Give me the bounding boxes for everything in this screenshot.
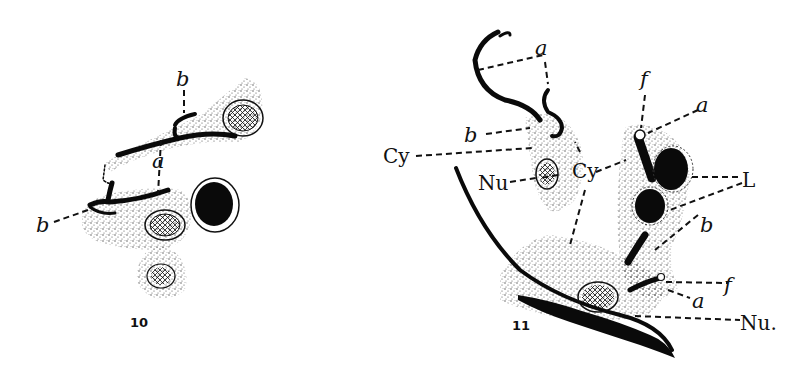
label-b-left: b: [464, 123, 477, 147]
figure-number-11: 11: [512, 318, 530, 333]
figure-number-10: 10: [130, 315, 148, 330]
label-f-right: f: [722, 273, 735, 297]
nucleus-bottom: [147, 264, 175, 288]
nucleus-middle: [145, 210, 185, 240]
nucleus-upper: [223, 100, 263, 136]
leader-cy-left: [416, 148, 532, 156]
lipid-body: [191, 178, 239, 232]
nucleus-base: [578, 282, 618, 312]
leader-nu-bottom: [635, 316, 740, 320]
leader-a-top-2: [545, 62, 548, 84]
label-b-left: b: [36, 213, 49, 237]
label-nu-left: Nu: [478, 171, 509, 195]
label-b-right: b: [700, 213, 713, 237]
label-a: a: [152, 149, 165, 173]
illustration-plate: b a b 10: [0, 0, 810, 373]
nucleus-left: [536, 159, 558, 189]
leader-a-right-bottom: [668, 290, 690, 298]
leader-nu-left: [510, 178, 536, 182]
figure-10: b a b 10: [36, 67, 263, 330]
figure-11: a b Cy Nu Cy f a L b f a Nu. 11: [383, 32, 777, 358]
label-a-right-top: a: [696, 93, 709, 117]
label-cy-center: Cy: [572, 159, 599, 183]
label-L: L: [742, 168, 755, 192]
label-f-top: f: [638, 67, 651, 91]
label-b-top: b: [176, 67, 189, 91]
leader-a-top-1: [478, 55, 543, 70]
flagellum-top: [475, 32, 540, 120]
label-nu-bottom: Nu.: [740, 311, 777, 335]
leader-f-top: [641, 95, 645, 128]
label-a-top: a: [535, 36, 548, 60]
label-a-right-bottom: a: [692, 289, 705, 313]
lipid-droplet-upper: [653, 146, 693, 192]
label-cy-left: Cy: [383, 144, 410, 168]
leader-b-left: [486, 128, 530, 134]
